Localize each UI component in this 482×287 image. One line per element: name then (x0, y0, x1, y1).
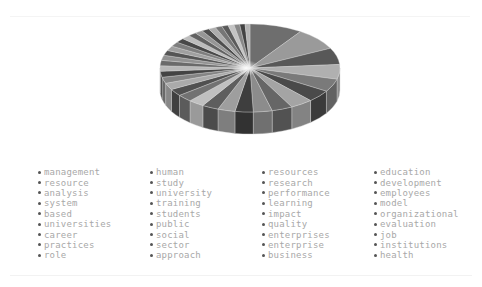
legend-bullet-icon (262, 202, 265, 205)
legend-item: enterprise (262, 240, 374, 250)
legend-label: evaluation (380, 219, 436, 229)
legend-label: resources (268, 167, 319, 177)
legend-label: based (44, 209, 72, 219)
legend-label: social (156, 230, 190, 240)
legend-label: analysis (44, 188, 89, 198)
legend-label: sector (156, 240, 190, 250)
legend-bullet-icon (374, 171, 377, 174)
legend-label: development (380, 178, 442, 188)
legend-label: approach (156, 250, 201, 260)
legend-item: development (374, 177, 482, 187)
legend-item: sector (150, 240, 262, 250)
legend-label: organizational (380, 209, 459, 219)
legend-label: study (156, 178, 184, 188)
legend-bullet-icon (38, 212, 41, 215)
legend-item: public (150, 219, 262, 229)
legend-label: quality (268, 219, 307, 229)
legend-bullet-icon (262, 181, 265, 184)
legend-bullet-icon (150, 191, 153, 194)
legend-bullet-icon (150, 254, 153, 257)
legend-bullet-icon (374, 223, 377, 226)
legend-label: university (156, 188, 212, 198)
legend-bullet-icon (38, 233, 41, 236)
pie-center-highlight (232, 60, 260, 76)
legend-label: performance (268, 188, 330, 198)
legend-item: health (374, 250, 482, 260)
legend-item: university (150, 188, 262, 198)
legend-label: management (44, 167, 100, 177)
legend-item: resources (262, 167, 374, 177)
legend-item: model (374, 198, 482, 208)
legend-label: system (44, 198, 78, 208)
legend-bullet-icon (150, 233, 153, 236)
legend-item: based (38, 209, 150, 219)
legend-bullet-icon (374, 233, 377, 236)
legend-bullet-icon (38, 171, 41, 174)
legend-item: employees (374, 188, 482, 198)
legend-label: business (268, 250, 313, 260)
legend-label: job (380, 230, 397, 240)
legend-bullet-icon (38, 254, 41, 257)
legend-bullet-icon (374, 254, 377, 257)
legend-item: education (374, 167, 482, 177)
legend-bullet-icon (38, 181, 41, 184)
legend-label: employees (380, 188, 431, 198)
legend-bullet-icon (150, 202, 153, 205)
legend-bullet-icon (374, 202, 377, 205)
legend-bullet-icon (38, 202, 41, 205)
legend-bullet-icon (150, 223, 153, 226)
bottom-divider (10, 275, 472, 276)
legend-bullet-icon (262, 233, 265, 236)
legend-item: universities (38, 219, 150, 229)
legend-bullet-icon (150, 181, 153, 184)
legend-bullet-icon (262, 212, 265, 215)
legend-bullet-icon (262, 223, 265, 226)
legend-item: institutions (374, 240, 482, 250)
legend-item: enterprises (262, 229, 374, 239)
legend-bullet-icon (262, 171, 265, 174)
legend-bullet-icon (150, 212, 153, 215)
legend-label: research (268, 178, 313, 188)
legend-label: universities (44, 219, 111, 229)
legend-label: human (156, 167, 184, 177)
legend-label: impact (268, 209, 302, 219)
legend-item: business (262, 250, 374, 260)
legend-item: impact (262, 209, 374, 219)
legend-item: quality (262, 219, 374, 229)
legend-bullet-icon (374, 212, 377, 215)
legend-label: practices (44, 240, 95, 250)
pie-chart (150, 18, 350, 138)
legend-bullet-icon (150, 243, 153, 246)
legend-label: institutions (380, 240, 447, 250)
legend-bullet-icon (38, 191, 41, 194)
legend-item: performance (262, 188, 374, 198)
legend-label: learning (268, 198, 313, 208)
legend-bullet-icon (262, 254, 265, 257)
legend-item: training (150, 198, 262, 208)
legend-bullet-icon (150, 171, 153, 174)
legend-bullet-icon (374, 191, 377, 194)
legend-item: students (150, 209, 262, 219)
legend-item: career (38, 229, 150, 239)
legend-item: analysis (38, 188, 150, 198)
legend-bullet-icon (262, 191, 265, 194)
legend-bullet-icon (374, 243, 377, 246)
legend-label: enterprise (268, 240, 324, 250)
legend-bullet-icon (38, 223, 41, 226)
legend-label: students (156, 209, 201, 219)
legend-item: management (38, 167, 150, 177)
legend-label: education (380, 167, 431, 177)
legend-item: practices (38, 240, 150, 250)
top-divider (10, 16, 470, 17)
legend-item: organizational (374, 209, 482, 219)
pie-chart-svg (150, 18, 350, 138)
legend-label: career (44, 230, 78, 240)
legend-bullet-icon (262, 243, 265, 246)
legend-item: evaluation (374, 219, 482, 229)
legend-item: role (38, 250, 150, 260)
legend-item: job (374, 229, 482, 239)
chart-legend: managementhumanresourceseducationresourc… (38, 167, 478, 261)
legend-item: approach (150, 250, 262, 260)
legend-label: role (44, 250, 66, 260)
legend-bullet-icon (374, 181, 377, 184)
